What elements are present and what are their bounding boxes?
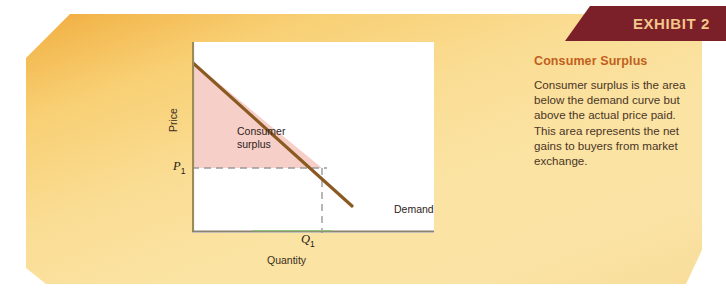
chart-plot-area: Consumer surplus Demand	[192, 42, 434, 233]
supply-demand-chart: Consumer surplus Demand Price Quantity P…	[155, 36, 455, 266]
caption-body: Consumer surplus is the area below the d…	[534, 77, 686, 168]
x-axis-tick-q1: Q1	[301, 232, 315, 249]
q1-subscript: 1	[310, 239, 315, 249]
demand-curve-label: Demand	[394, 203, 434, 215]
y-axis-tick-p1: P1	[173, 159, 185, 176]
consumer-surplus-annotation-line2: surplus	[237, 138, 285, 151]
p1-subscript: 1	[181, 166, 186, 176]
consumer-surplus-annotation: Consumer surplus	[237, 125, 285, 151]
exhibit-banner-label: EXHIBIT 2	[633, 15, 710, 32]
p1-letter: P	[173, 159, 181, 173]
caption-title: Consumer Surplus	[534, 54, 686, 68]
q1-letter: Q	[301, 232, 310, 246]
x-axis-label: Quantity	[267, 254, 306, 266]
caption-block: Consumer Surplus Consumer surplus is the…	[534, 54, 686, 168]
y-axis-label: Price	[167, 108, 179, 132]
exhibit-banner: EXHIBIT 2	[565, 6, 726, 41]
exhibit-figure: EXHIBIT 2 Consumer Surplus Consumer surp…	[0, 0, 726, 298]
consumer-surplus-region	[194, 63, 322, 168]
consumer-surplus-annotation-line1: Consumer	[237, 125, 285, 138]
